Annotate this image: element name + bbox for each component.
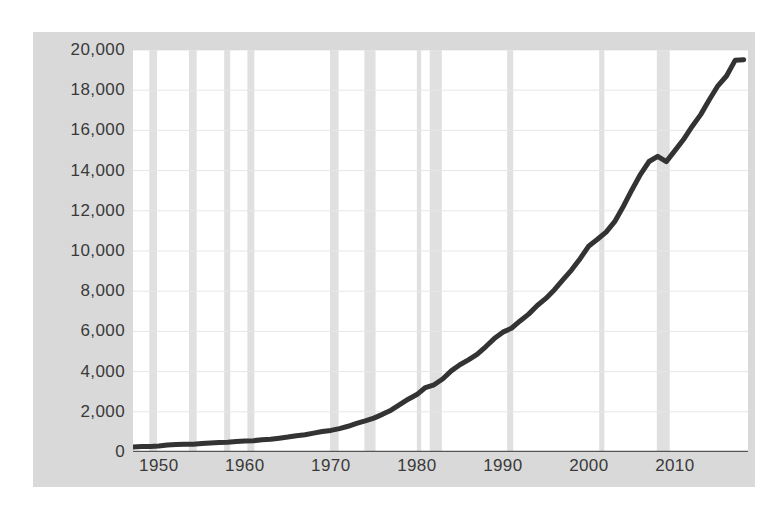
y-axis-tick-label: 4,000 (33, 362, 125, 382)
x-axis-tick-label: 1960 (225, 456, 264, 476)
x-axis-tick-label: 1980 (397, 456, 436, 476)
y-axis: 02,0004,0006,0008,00010,00012,00014,0001… (33, 50, 125, 452)
y-axis-tick-label: 18,000 (33, 80, 125, 100)
y-axis-tick-label: 14,000 (33, 161, 125, 181)
x-axis-tick-label: 1950 (139, 456, 178, 476)
chart-panel: 02,0004,0006,0008,00010,00012,00014,0001… (33, 32, 755, 487)
y-axis-tick-label: 8,000 (33, 281, 125, 301)
x-axis: 1950196019701980199020002010 (133, 456, 748, 486)
y-axis-tick-label: 16,000 (33, 120, 125, 140)
y-axis-tick-label: 2,000 (33, 402, 125, 422)
y-axis-tick-label: 6,000 (33, 321, 125, 341)
x-axis-tick-label: 2000 (569, 456, 608, 476)
plot-area (133, 50, 748, 452)
x-axis-tick-label: 1970 (311, 456, 350, 476)
x-axis-tick-label: 2010 (655, 456, 694, 476)
y-axis-tick-label: 10,000 (33, 241, 125, 261)
chart-figure: 02,0004,0006,0008,00010,00012,00014,0001… (0, 0, 778, 513)
y-axis-tick-label: 12,000 (33, 201, 125, 221)
x-axis-tick-label: 1990 (483, 456, 522, 476)
y-axis-tick-label: 20,000 (33, 40, 125, 60)
line-chart-svg (133, 50, 748, 452)
y-axis-tick-label: 0 (33, 442, 125, 462)
